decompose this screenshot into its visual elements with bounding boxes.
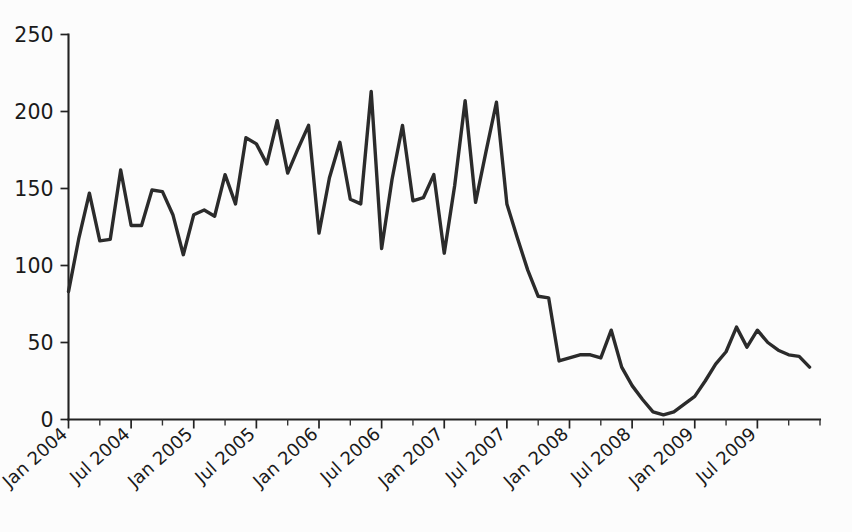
line-chart: 050100150200250 Jan 2004Jul 2004Jan 2005… — [0, 0, 852, 532]
y-axis-tick-label: 150 — [14, 177, 53, 201]
chart-svg: 050100150200250 Jan 2004Jul 2004Jan 2005… — [0, 0, 852, 532]
y-axis-tick-label: 50 — [27, 331, 53, 355]
y-axis-tick-label: 200 — [14, 100, 53, 124]
chart-page: 050100150200250 Jan 2004Jul 2004Jan 2005… — [0, 0, 852, 532]
y-axis-tick-label: 250 — [14, 23, 53, 47]
y-axis-tick-label: 100 — [14, 254, 53, 278]
